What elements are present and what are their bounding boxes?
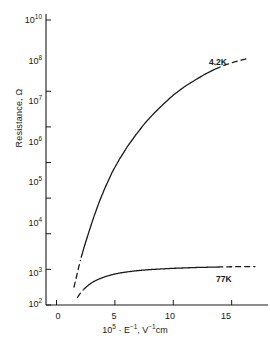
chart-figure: Resistance, Ω 1010 108 107 106 105 104 1… xyxy=(0,0,270,342)
axis-lines xyxy=(46,14,268,305)
data-series-group xyxy=(74,58,255,297)
plot-area xyxy=(0,0,270,342)
x-tick-marks xyxy=(57,300,232,305)
series-curve-4-2k-dashed xyxy=(74,260,80,287)
series-curve-4-2k-solid xyxy=(81,69,215,257)
series-curve-4-2k-dashed xyxy=(216,58,250,69)
y-tick-marks xyxy=(46,20,51,305)
series-curve-77k-solid xyxy=(84,267,217,289)
series-curve-77k-dashed xyxy=(78,290,84,297)
